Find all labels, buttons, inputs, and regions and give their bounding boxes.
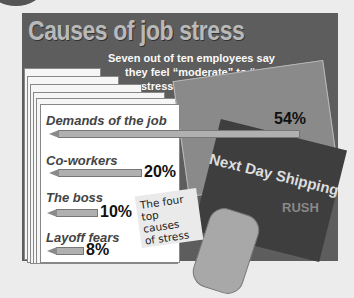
bar-label-demands: Demands of the job xyxy=(46,113,167,128)
pencil-bar-layoff xyxy=(56,247,84,255)
bar-value-boss: 10% xyxy=(100,203,132,221)
bar-value-layoff: 8% xyxy=(86,241,109,259)
chart-title: Causes of job stress xyxy=(28,15,244,47)
bar-label-boss: The boss xyxy=(46,190,103,205)
rush-stamp: RUSH xyxy=(282,200,319,215)
bar-value-demands: 54% xyxy=(274,110,306,128)
bar-value-coworkers: 20% xyxy=(144,163,176,181)
pencil-bar-demands xyxy=(58,130,300,138)
sticky-note: The four top causes of stress xyxy=(135,188,204,248)
pencil-bar-coworkers xyxy=(58,169,142,177)
bar-label-coworkers: Co-workers xyxy=(46,153,118,168)
pencil-bar-boss xyxy=(56,209,98,217)
corner-badge xyxy=(0,0,42,6)
